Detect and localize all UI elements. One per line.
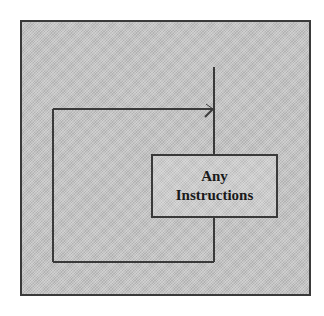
any-instructions-box: Any Instructions [151, 154, 278, 218]
box-label-line-2: Instructions [176, 186, 254, 205]
diagram-canvas: Any Instructions [0, 0, 324, 316]
box-label-line-1: Any [201, 167, 228, 186]
arrowhead-icon [205, 104, 213, 117]
